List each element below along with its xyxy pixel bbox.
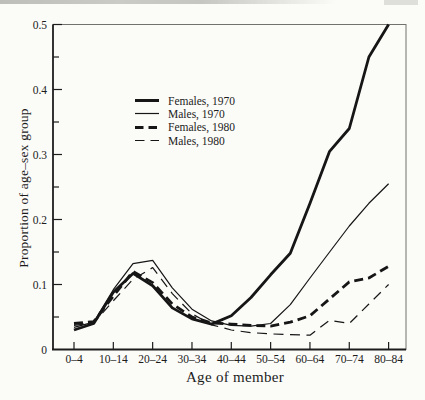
y-tick-label: 0 — [41, 344, 47, 356]
legend-label: Females, 1970 — [168, 95, 235, 107]
line-chart: 00.10.20.30.40.50–410–1420–2430–3440–445… — [0, 0, 425, 400]
x-tick-label: 60–64 — [296, 353, 325, 365]
y-tick-label: 0.3 — [33, 149, 48, 161]
y-tick-label: 0.1 — [33, 279, 48, 291]
legend-line-sample — [134, 96, 160, 105]
legend-label: Males, 1970 — [168, 108, 225, 120]
chart-legend: Females, 1970Males, 1970Females, 1980Mal… — [134, 94, 235, 147]
scanned-figure: Proportion of age–sex group 00.10.20.30.… — [0, 0, 425, 400]
x-tick-label: 70–74 — [335, 353, 364, 365]
legend-label: Females, 1980 — [168, 121, 235, 133]
x-tick-label: 30–34 — [178, 353, 207, 365]
legend-item-males-1980: Males, 1980 — [134, 134, 235, 147]
series-line-males-1970 — [74, 184, 389, 328]
legend-line-sample — [134, 136, 160, 145]
x-axis-title: Age of member — [186, 369, 284, 386]
legend-item-females-1980: Females, 1980 — [134, 121, 235, 134]
x-tick-label: 10–14 — [99, 353, 128, 365]
x-tick-label: 50–54 — [256, 353, 285, 365]
legend-item-males-1970: Males, 1970 — [134, 107, 235, 120]
legend-item-females-1970: Females, 1970 — [134, 94, 235, 107]
legend-line-sample — [134, 109, 160, 118]
x-tick-label: 20–24 — [138, 353, 167, 365]
x-tick-label: 0–4 — [65, 353, 83, 365]
series-line-females-1970 — [74, 25, 389, 331]
legend-label: Males, 1980 — [168, 135, 225, 147]
x-tick-label: 80–84 — [374, 353, 403, 365]
legend-line-sample — [134, 123, 160, 132]
y-tick-label: 0.4 — [33, 84, 48, 96]
y-tick-label: 0.2 — [33, 214, 48, 226]
x-tick-label: 40–44 — [217, 353, 246, 365]
y-tick-label: 0.5 — [33, 19, 48, 31]
